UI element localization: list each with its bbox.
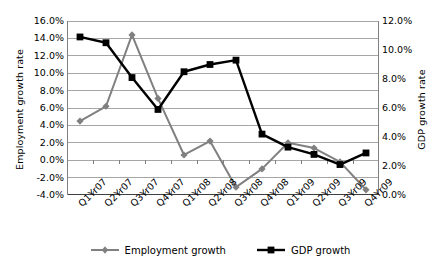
- y-axis-right-ticks: 12.0%10.0%8.0%6.0%4.0%2.0%0.0%: [382, 0, 430, 267]
- y-axis-left-ticks: 16.0%14.0%12.0%10.0%8.0%6.0%4.0%2.0%0.0%…: [18, 0, 64, 267]
- y-axis-left-tick-label: 6.0%: [40, 103, 64, 113]
- chart-container: Employment growth rate GDP growth rate 1…: [0, 0, 440, 267]
- plot-area: [67, 21, 379, 195]
- y-axis-left-tick-label: 10.0%: [34, 68, 64, 78]
- y-axis-left-tick-label: 14.0%: [34, 33, 64, 43]
- legend-item-employment-growth: Employment growth: [90, 244, 226, 256]
- x-axis-ticks: Q1Yr07Q2Yr07Q3Yr07Q4Yr07Q1Yr08Q2Yr08Q3Yr…: [67, 196, 379, 242]
- y-axis-right-tick-label: 8.0%: [382, 74, 406, 84]
- y-axis-left-tick-label: 4.0%: [40, 120, 64, 130]
- y-axis-right-tick-label: 10.0%: [382, 45, 412, 55]
- chart-legend: Employment growth GDP growth: [0, 239, 440, 261]
- y-axis-right-tick-label: 4.0%: [382, 132, 406, 142]
- y-axis-left-tick-label: 12.0%: [34, 51, 64, 61]
- y-axis-left-tick-label: 16.0%: [34, 16, 64, 26]
- legend-label-gdp-growth: GDP growth: [291, 245, 350, 256]
- y-axis-left-tick-label: 8.0%: [40, 86, 64, 96]
- y-axis-right-tick-label: 6.0%: [382, 103, 406, 113]
- y-axis-right-tick-label: 2.0%: [382, 161, 406, 171]
- y-axis-left-tick-label: 0.0%: [40, 155, 64, 165]
- legend-item-gdp-growth: GDP growth: [256, 244, 350, 256]
- legend-label-employment-growth: Employment growth: [125, 245, 226, 256]
- y-axis-right-tick-label: 12.0%: [382, 16, 412, 26]
- y-axis-left-tick-label: -2.0%: [36, 173, 64, 183]
- legend-marker-gdp-growth-icon: [256, 244, 286, 256]
- legend-marker-employment-growth-icon: [90, 244, 120, 256]
- y-axis-left-tick-label: 2.0%: [40, 138, 64, 148]
- y-axis-left-tick-label: -4.0%: [36, 190, 64, 200]
- plot-frame: [67, 21, 379, 195]
